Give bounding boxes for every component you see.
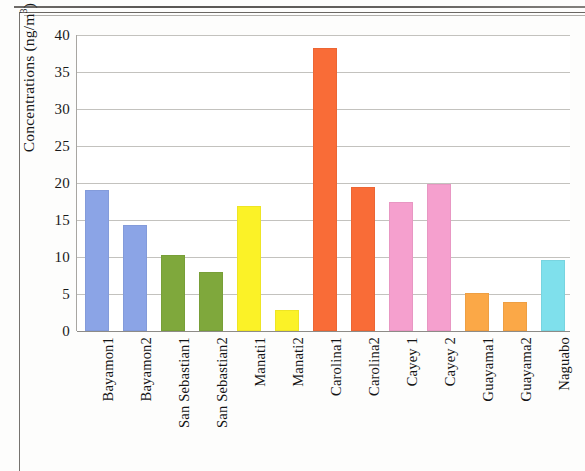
bar[interactable] — [465, 293, 489, 331]
bar-slot — [154, 35, 192, 331]
bar[interactable] — [85, 190, 109, 331]
bar[interactable] — [389, 202, 413, 331]
y-tick-label-20: 20 — [30, 176, 70, 191]
bar-slot — [534, 35, 572, 331]
y-axis-ticks: 0510152025303540 — [30, 35, 70, 331]
y-tick-label-15: 15 — [30, 213, 70, 228]
bar-slot — [116, 35, 154, 331]
x-tick-label: Manati1 — [253, 337, 268, 467]
bar[interactable] — [161, 255, 185, 331]
bar[interactable] — [199, 272, 223, 331]
bar-slot — [78, 35, 116, 331]
x-tick-label: Carolina1 — [329, 337, 344, 467]
y-tick-label-5: 5 — [30, 287, 70, 302]
x-tick-label: Cayey 2 — [443, 337, 458, 467]
x-tick-label: Bayamon1 — [101, 337, 116, 467]
x-axis-labels: Bayamon1Bayamon2San Sebastian1San Sebast… — [77, 337, 571, 467]
bar-slot — [306, 35, 344, 331]
x-tick-label: Naguabo — [557, 337, 572, 467]
y-axis-title-close: ) — [20, 3, 37, 8]
x-tick-label: Carolina2 — [367, 337, 382, 467]
bar[interactable] — [503, 302, 527, 331]
y-tick-label-30: 30 — [30, 102, 70, 117]
bar-slot — [344, 35, 382, 331]
x-tick-label: Bayamon2 — [139, 337, 154, 467]
plot-area — [76, 35, 570, 331]
bar[interactable] — [541, 260, 565, 331]
bar[interactable] — [237, 206, 261, 331]
bar-slot — [230, 35, 268, 331]
y-tick-label-25: 25 — [30, 139, 70, 154]
x-tick-label: San Sebastian1 — [177, 337, 192, 467]
bar-series — [78, 35, 570, 331]
bar[interactable] — [275, 310, 299, 331]
bar[interactable] — [123, 225, 147, 331]
chart-figure: Concentrations (ng/m3) 0510152025303540 … — [0, 0, 585, 471]
scan-top-edge — [14, 6, 585, 8]
x-tick-label: San Sebastian2 — [215, 337, 230, 467]
x-tick-label: Guayama1 — [481, 337, 496, 467]
y-tick-label-0: 0 — [30, 324, 70, 339]
y-tick-label-35: 35 — [30, 65, 70, 80]
bar-slot — [458, 35, 496, 331]
bar-slot — [192, 35, 230, 331]
y-tick-label-40: 40 — [30, 28, 70, 43]
x-tick-label: Guayama2 — [519, 337, 534, 467]
y-axis-title-exponent: 3 — [18, 8, 29, 13]
bar[interactable] — [427, 184, 451, 331]
bar-slot — [382, 35, 420, 331]
y-tick-label-10: 10 — [30, 250, 70, 265]
bar-slot — [420, 35, 458, 331]
bar[interactable] — [351, 187, 375, 331]
x-tick-label: Cayey 1 — [405, 337, 420, 467]
x-tick-label: Manati2 — [291, 337, 306, 467]
bar-slot — [496, 35, 534, 331]
bar[interactable] — [313, 48, 337, 331]
bar-slot — [268, 35, 306, 331]
